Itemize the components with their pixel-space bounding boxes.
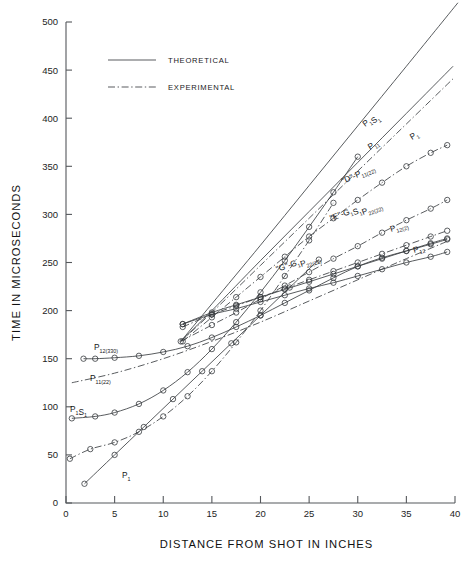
data-markers-group — [67, 142, 450, 486]
curve-P1S1 — [181, 3, 458, 342]
y-tick-label: 350 — [42, 161, 58, 172]
curve-P12(2) — [183, 238, 448, 324]
y-tick-label: 500 — [42, 16, 58, 27]
curve-label-E-G1S1P22: "E"-G1S1P22(22) — [328, 195, 384, 229]
curve-P12(330) — [84, 239, 448, 358]
curve-label-G-G1P22: "G"-G1P22(22) — [275, 250, 323, 278]
x-tick-label: 30 — [352, 508, 363, 519]
axis-titles-group: DISTANCE FROM SHOT IN INCHESTIME IN MICR… — [10, 184, 373, 550]
x-tick-label: 5 — [112, 508, 117, 519]
svg-text:P12: P12 — [412, 242, 426, 256]
curve-P11 — [181, 66, 453, 341]
data-point — [355, 197, 360, 202]
x-tick-label: 15 — [207, 508, 218, 519]
y-tick-label: 250 — [42, 257, 58, 268]
arrival-time-plot: 0501001502002503003504004505000510152025… — [0, 0, 476, 568]
curve-label-P1S1-upper: P1S1 — [360, 110, 382, 132]
x-tick-label: 40 — [450, 508, 461, 519]
y-tick-label: 50 — [47, 449, 58, 460]
curves-group — [70, 3, 458, 484]
data-point — [112, 440, 117, 445]
curve-label-D-P11(22): "D"-P11(22) — [340, 162, 377, 187]
y-tick-label: 0 — [53, 497, 58, 508]
x-tick-label: 20 — [255, 508, 266, 519]
svg-text:P11(22): P11(22) — [90, 373, 111, 385]
data-point — [379, 230, 384, 235]
curve-label-P1-bottom: P1 — [122, 470, 131, 482]
data-point — [445, 228, 450, 233]
svg-text:P12(2): P12(2) — [389, 219, 410, 235]
svg-text:"D"-P11(22): "D"-P11(22) — [340, 162, 377, 187]
curve-label-P12: P12 — [412, 242, 426, 256]
curve-labels-group: P1S1P11P1"D"-P11(22)"E"-G1S1P22(22)"G"-G… — [70, 110, 426, 481]
y-tick-label: 300 — [42, 209, 58, 220]
svg-text:"G"-G1P22(22): "G"-G1P22(22) — [275, 250, 323, 278]
x-axis-title: DISTANCE FROM SHOT IN INCHES — [160, 538, 373, 550]
axes-group: 0501001502002503003504004505000510152025… — [42, 16, 460, 519]
legend-group: THEORETICALEXPERIMENTAL — [108, 56, 235, 92]
curve-label-P12(2): P12(2) — [389, 219, 410, 235]
legend-label: THEORETICAL — [168, 56, 229, 65]
y-tick-label: 400 — [42, 113, 58, 124]
data-point — [88, 446, 93, 451]
data-point — [428, 206, 433, 211]
x-tick-label: 35 — [401, 508, 412, 519]
curve-label-P11(22): P11(22) — [90, 373, 111, 385]
curve-E-G1S1P22(22) — [181, 200, 447, 341]
svg-text:P1: P1 — [408, 129, 421, 143]
y-axis-title: TIME IN MICROSECONDS — [10, 184, 22, 341]
data-point — [185, 394, 190, 399]
data-point — [428, 150, 433, 155]
curve-label-P12(330): P12(330) — [94, 342, 118, 354]
data-point — [209, 322, 214, 327]
svg-text:P1: P1 — [122, 470, 131, 482]
data-point — [404, 217, 409, 222]
chart-figure: 0501001502002503003504004505000510152025… — [0, 0, 476, 568]
curve-label-P1-upper: P1 — [408, 129, 421, 143]
x-tick-label: 0 — [63, 508, 68, 519]
x-tick-label: 25 — [304, 508, 315, 519]
curve-P1 — [181, 79, 453, 342]
svg-text:"E"-G1S1P22(22): "E"-G1S1P22(22) — [328, 195, 384, 229]
svg-text:P1S1: P1S1 — [360, 110, 382, 132]
data-point — [161, 414, 166, 419]
legend-label: EXPERIMENTAL — [168, 83, 235, 92]
svg-text:P12(330): P12(330) — [94, 342, 118, 354]
data-point — [404, 164, 409, 169]
y-tick-label: 100 — [42, 401, 58, 412]
curve-P1-bottom — [84, 260, 318, 484]
data-point — [404, 242, 409, 247]
y-tick-label: 450 — [42, 65, 58, 76]
y-tick-label: 150 — [42, 353, 58, 364]
y-tick-label: 200 — [42, 305, 58, 316]
x-tick-label: 10 — [158, 508, 169, 519]
curve-G-G1P22(22) — [183, 231, 448, 327]
